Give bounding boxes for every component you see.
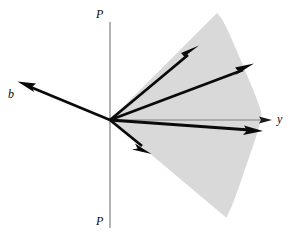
label-y-axis: y (277, 113, 282, 125)
vector-fan-diagram (0, 0, 295, 241)
label-b-vector: b (8, 88, 14, 100)
label-p-bottom: P (96, 215, 103, 227)
label-p-top: P (96, 8, 103, 20)
